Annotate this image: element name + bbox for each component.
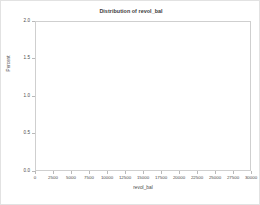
y-tick-mark: [32, 21, 35, 22]
x-tick-mark: [107, 171, 108, 174]
histogram-figure: Distribution of revol_bal Percent 0.00.5…: [0, 0, 260, 205]
y-tick-label: 1.5: [24, 55, 30, 60]
y-tick-label: 0.5: [24, 130, 30, 135]
x-tick-mark: [125, 171, 126, 174]
histogram-bars: [36, 22, 250, 170]
x-tick-label: 30000: [237, 175, 260, 180]
plot-area: [35, 21, 251, 171]
x-tick-mark: [161, 171, 162, 174]
x-tick-mark: [89, 171, 90, 174]
y-tick-label: 1.0: [24, 93, 30, 98]
x-tick-mark: [251, 171, 252, 174]
x-tick-mark: [197, 171, 198, 174]
y-tick-label: 2.0: [24, 18, 30, 23]
x-tick-mark: [143, 171, 144, 174]
y-axis-label: Percent: [6, 34, 11, 94]
histogram-bar: [250, 148, 251, 171]
x-tick-mark: [35, 171, 36, 174]
y-tick-mark: [32, 58, 35, 59]
x-tick-mark: [53, 171, 54, 174]
x-tick-mark: [71, 171, 72, 174]
x-axis-label: revol_bal: [35, 185, 251, 190]
x-tick-mark: [215, 171, 216, 174]
chart-title: Distribution of revol_bal: [1, 8, 260, 14]
y-tick-label: 0.0: [24, 168, 30, 173]
y-tick-mark: [32, 96, 35, 97]
y-tick-mark: [32, 133, 35, 134]
x-tick-mark: [233, 171, 234, 174]
x-tick-mark: [179, 171, 180, 174]
